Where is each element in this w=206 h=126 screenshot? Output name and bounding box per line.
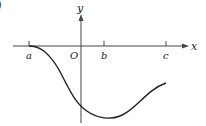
y-axis-label: y — [76, 2, 84, 15]
function-curve — [29, 46, 166, 118]
tick-label-b: b — [101, 50, 107, 61]
tick-label-a: a — [26, 50, 32, 61]
x-axis-label: x — [191, 40, 198, 53]
function-graph: x y O a b c — [0, 0, 206, 126]
origin-label: O — [70, 50, 78, 61]
x-axis-arrow-icon — [182, 44, 189, 49]
y-axis-arrow-icon — [79, 14, 84, 21]
tick-label-c: c — [163, 50, 169, 61]
